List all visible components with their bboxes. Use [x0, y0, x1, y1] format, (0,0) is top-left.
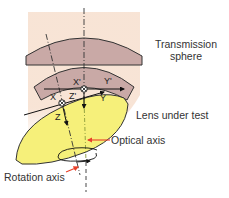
y-label: Y: [100, 93, 106, 103]
lens-measurement-diagram: X' Y' Z' X Y Z: [0, 0, 229, 198]
transmission-sphere-label-line2: sphere: [148, 50, 224, 62]
rotation-axis-pointer: [66, 167, 78, 172]
lens-under-test-label: Lens under test: [136, 109, 208, 121]
transmission-sphere-label-line1: Transmission: [148, 38, 224, 50]
x-prime-label: X': [73, 77, 81, 87]
transmission-sphere-label: Transmission sphere: [148, 38, 224, 62]
x-label: X: [50, 92, 56, 102]
rotation-axis-label: Rotation axis: [4, 171, 65, 183]
optical-axis-label: Optical axis: [111, 134, 165, 146]
z-prime-label: Z': [69, 91, 76, 101]
y-prime-label: Y': [104, 76, 112, 86]
z-label: Z: [55, 112, 61, 122]
